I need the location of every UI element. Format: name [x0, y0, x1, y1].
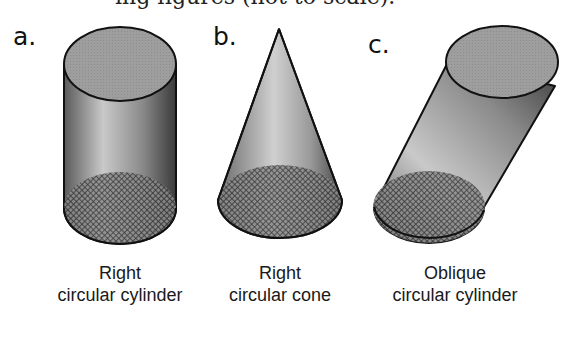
oblique-circular-cylinder: [373, 26, 558, 243]
caption-b-line1: Right: [200, 262, 360, 284]
caption-a: Right circular cylinder: [40, 262, 200, 306]
caption-c-line2: circular cylinder: [370, 284, 540, 306]
caption-b-line2: circular cone: [200, 284, 360, 306]
caption-c: Oblique circular cylinder: [370, 262, 540, 306]
caption-a-line1: Right: [40, 262, 200, 284]
figure-label-c: c.: [368, 30, 390, 59]
right-circular-cone: [218, 29, 342, 239]
caption-b: Right circular cone: [200, 262, 360, 306]
figure-label-a: a.: [13, 22, 36, 51]
right-circular-cylinder: [64, 27, 176, 244]
caption-a-line2: circular cylinder: [40, 284, 200, 306]
figure-label-b: b.: [213, 22, 237, 51]
caption-c-line1: Oblique: [370, 262, 540, 284]
